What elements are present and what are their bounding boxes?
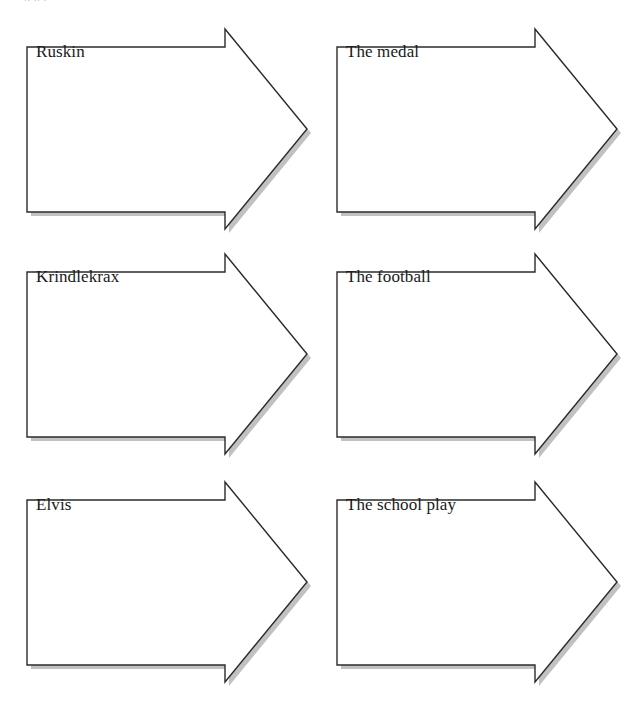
arrow-label-5: Elvis [36, 494, 71, 515]
arrow-card-6[interactable]: The school play [332, 475, 632, 687]
arrow-label-6: The school play [346, 494, 456, 515]
arrow-label-2: The medal [346, 41, 419, 62]
worksheet-page: .. .. . Ruskin The medal Kr [0, 0, 637, 711]
arrow-card-3[interactable]: Krindlekrax [22, 247, 322, 459]
arrow-label-3: Krindlekrax [36, 266, 119, 287]
arrow-label-1: Ruskin [36, 41, 85, 62]
arrow-card-1[interactable]: Ruskin [22, 22, 322, 234]
arrow-label-4: The football [346, 266, 431, 287]
arrow-card-4[interactable]: The football [332, 247, 632, 459]
arrow-card-2[interactable]: The medal [332, 22, 632, 234]
arrow-grid: Ruskin The medal Krindlekrax The footb [0, 0, 637, 711]
arrow-card-5[interactable]: Elvis [22, 475, 322, 687]
